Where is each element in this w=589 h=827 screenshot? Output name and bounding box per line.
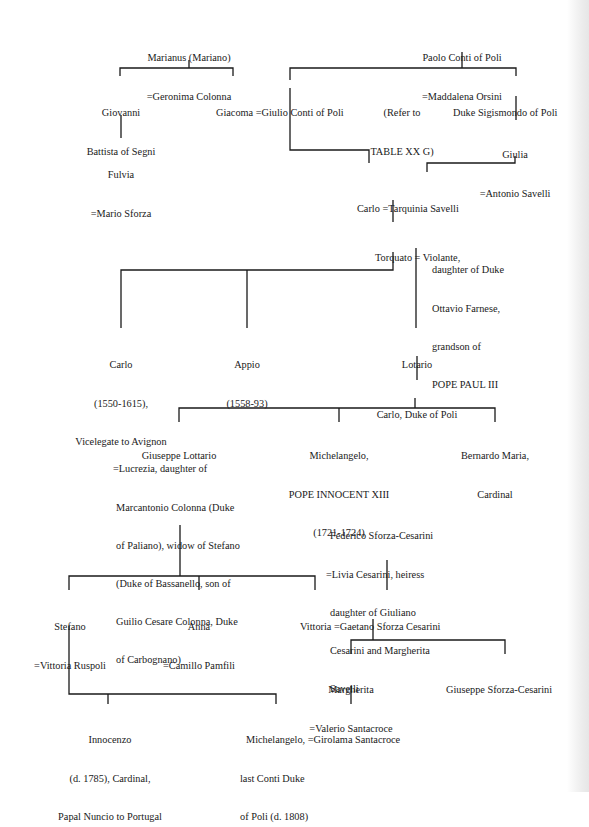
node-bernardo: Bernardo Maria, Cardinal	[445, 425, 545, 514]
node-giulia: Giulia =Antonio Savelli	[475, 124, 555, 213]
node-lotario: Lotario	[387, 334, 447, 385]
person-name: Paolo Conti of Poli	[412, 52, 512, 65]
spouse-name: =Antonio Savelli	[475, 188, 555, 201]
spouse-line: =Livia Cesarini, heiress	[326, 569, 433, 582]
node-anna: Anna =Camillo Pamfili	[154, 596, 244, 685]
node-fulvia: Fulvia =Mario Sforza	[81, 144, 161, 233]
spouse-line: (Duke of Bassanello, son of	[113, 578, 240, 591]
person-name: Duke Sigismondo of Poli	[453, 107, 557, 120]
person-dates: (1550-1615),	[61, 398, 181, 411]
node-michelangelo-last: Michelangelo, =Girolama Santacroce last …	[240, 709, 400, 827]
note-line: Ottavio Farnese,	[432, 303, 504, 316]
spouse-line: of Paliano), widow of Stefano	[113, 540, 240, 553]
spouse-name: =Mario Sforza	[81, 208, 161, 221]
person-name: Vittoria =Gaetano Sforza Cesarini	[300, 621, 440, 634]
person-name: Anna	[154, 621, 244, 634]
node-giuseppe-sforza: Giuseppe Sforza-Cesarini	[446, 659, 552, 710]
spouse-line: Marcantonio Colonna (Duke	[113, 502, 240, 515]
person-name: Giulia	[475, 149, 555, 162]
person-name: Giuseppe Sforza-Cesarini	[446, 684, 552, 697]
node-giacoma: Giacoma =Giulio Conti of Poli	[216, 82, 344, 133]
person-name: Giacoma =Giulio Conti of Poli	[216, 107, 344, 120]
spouse-name: =Vittoria Ruspoli	[24, 660, 116, 673]
person-dates: (1558-93)	[207, 398, 287, 411]
node-appio: Appio (1558-93)	[207, 334, 287, 423]
person-name: Giovanni	[76, 107, 166, 120]
node-refer-table: (Refer to TABLE XX G)	[367, 82, 437, 171]
person-name: Michelangelo,	[279, 450, 399, 463]
node-stefano: Stefano =Vittoria Ruspoli	[24, 596, 116, 685]
person-name: Innocenzo	[45, 734, 175, 747]
reference-note: (Refer to	[367, 107, 437, 120]
note-line: daughter of Duke	[432, 264, 504, 277]
person-name: Carlo =Tarquinia Savelli	[357, 203, 459, 216]
person-title: last Conti Duke	[240, 773, 400, 786]
person-title: Papal Nuncio to Portugal	[45, 811, 175, 824]
spouse-name: =Camillo Pamfili	[154, 660, 244, 673]
node-carlo-tarquinia: Carlo =Tarquinia Savelli	[357, 178, 459, 229]
person-name: Margherita	[300, 684, 402, 697]
reference-table: TABLE XX G)	[367, 146, 437, 159]
person-name: Bernardo Maria,	[445, 450, 545, 463]
person-name: Carlo, Duke of Poli	[362, 409, 472, 422]
spouse-line: =Lucrezia, daughter of	[113, 463, 240, 476]
person-name: Carlo	[61, 359, 181, 372]
person-name: Michelangelo, =Girolama Santacroce	[240, 734, 400, 747]
connector-torquato-left	[121, 252, 393, 328]
person-name: Federico Sforza-Cesarini	[326, 530, 433, 543]
person-dates: of Poli (d. 1808)	[240, 811, 400, 824]
person-dates: (d. 1785), Cardinal,	[45, 773, 175, 786]
person-title: POPE INNOCENT XIII	[279, 489, 399, 502]
node-innocenzo: Innocenzo (d. 1785), Cardinal, Papal Nun…	[45, 709, 175, 827]
person-name: Appio	[207, 359, 287, 372]
person-name: Marianus (Mariano)	[139, 52, 239, 65]
person-name: Fulvia	[81, 169, 161, 182]
node-vittoria: Vittoria =Gaetano Sforza Cesarini	[300, 596, 440, 647]
person-name: Stefano	[24, 621, 116, 634]
person-name: Lotario	[387, 359, 447, 372]
person-title: Cardinal	[445, 489, 545, 502]
